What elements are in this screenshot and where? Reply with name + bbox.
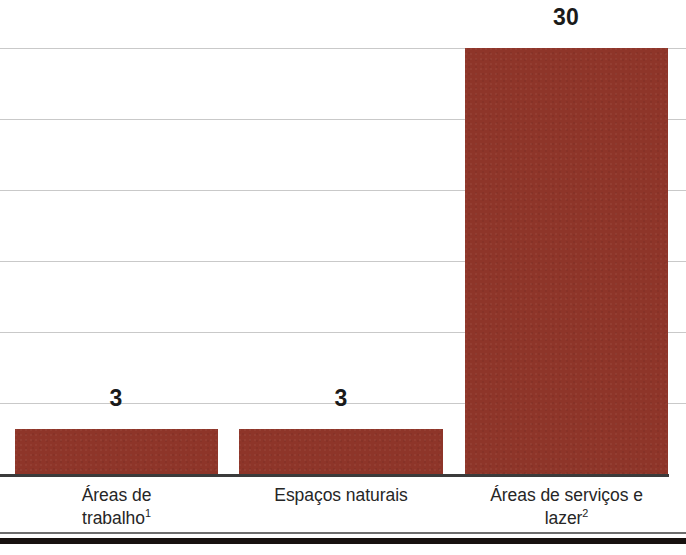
bar-areas-de-trabalho[interactable] [15, 429, 218, 474]
category-label-espacos-naturais: Espaços naturais [239, 484, 443, 507]
category-label-line1: Espaços naturais [239, 484, 443, 507]
category-label-areas-de-servicos-e-lazer: Áreas de serviços e lazer2 [455, 484, 678, 531]
bottom-rule-thin [0, 532, 686, 534]
bar-areas-de-servicos-e-lazer[interactable] [465, 48, 668, 474]
value-label-areas-de-servicos-e-lazer: 30 [516, 6, 616, 29]
footnote-marker-1: 1 [145, 507, 151, 519]
bottom-rule-thick [0, 538, 686, 544]
bar-espacos-naturais[interactable] [239, 429, 443, 474]
value-label-areas-de-trabalho: 3 [66, 387, 166, 410]
category-label-line2: lazer2 [455, 507, 678, 530]
value-label-espacos-naturais: 3 [291, 387, 391, 410]
category-label-line2: trabalho1 [15, 507, 218, 530]
footnote-marker-2: 2 [582, 507, 588, 519]
category-label-line1: Áreas de [15, 484, 218, 507]
category-label-areas-de-trabalho: Áreas de trabalho1 [15, 484, 218, 531]
x-axis-line [0, 474, 669, 477]
bar-chart: 3 3 30 Áreas de trabalho1 Espaços natura… [0, 0, 686, 555]
category-label-line1: Áreas de serviços e [455, 484, 678, 507]
